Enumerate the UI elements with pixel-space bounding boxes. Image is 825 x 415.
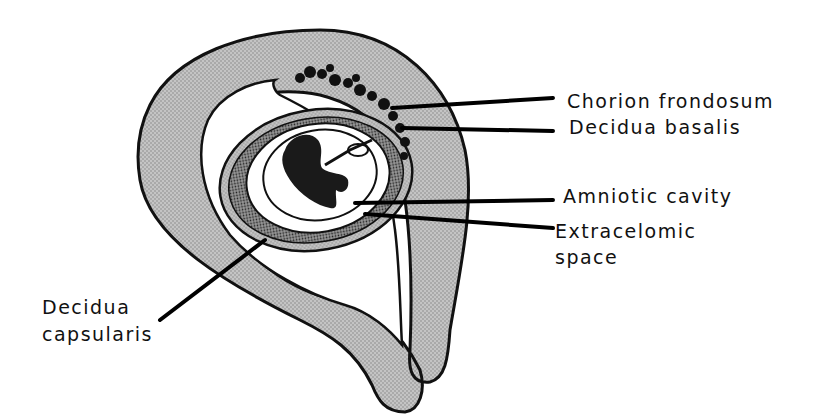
label-decidua-basalis: Decidua basalis bbox=[569, 116, 741, 138]
label-extracelomic-space-line1: Extracelomic bbox=[555, 220, 696, 242]
label-extracelomic-space-line2: space bbox=[555, 246, 618, 268]
uterus-diagram bbox=[0, 0, 825, 415]
label-decidua-capsularis-line1: Decidua bbox=[42, 296, 130, 318]
label-decidua-capsularis-line2: capsularis bbox=[42, 323, 153, 345]
label-amniotic-cavity: Amniotic cavity bbox=[563, 185, 732, 207]
label-chorion-frondosum: Chorion frondosum bbox=[567, 90, 774, 112]
